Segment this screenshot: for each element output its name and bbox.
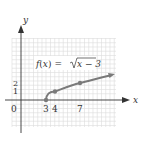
y-axis-arrow-icon	[18, 25, 24, 33]
radicand: x − 3	[77, 59, 101, 69]
x-tick-3: 3	[43, 104, 49, 114]
svg-text:f(x)=: f(x)=	[35, 59, 62, 69]
point-3-0	[44, 98, 48, 102]
y-tick-1: 1	[13, 87, 18, 96]
function-graph: y x 0 3 4 7 2 1 f(x)= x − 3	[0, 0, 146, 142]
x-axis-arrow-icon	[122, 97, 130, 103]
x-tick-7: 7	[77, 104, 83, 114]
point-4-1	[53, 89, 57, 93]
point-7-2	[78, 81, 82, 85]
x-axis-label: x	[133, 95, 138, 105]
origin-label: 0	[11, 104, 17, 114]
grid	[12, 38, 116, 127]
y-axis-label: y	[22, 15, 29, 25]
x-tick-4: 4	[52, 104, 58, 114]
